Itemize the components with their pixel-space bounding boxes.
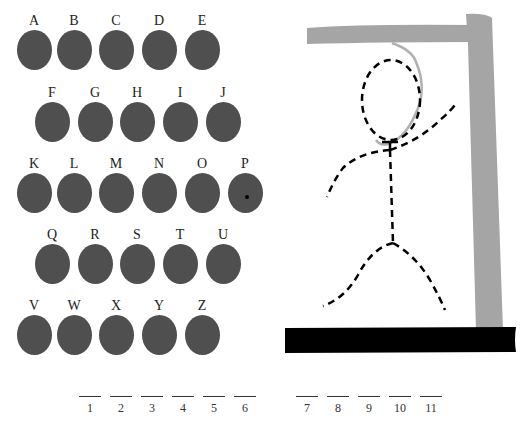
slot-underline	[389, 396, 411, 397]
letter-key-f[interactable]: F	[34, 84, 70, 142]
letter-key-p[interactable]: P	[227, 155, 263, 213]
letter-button-o[interactable]	[185, 173, 220, 213]
letter-button-i[interactable]	[163, 102, 198, 142]
slot-underline	[141, 396, 163, 397]
slot-underline	[79, 396, 101, 397]
figure-left-arm	[327, 150, 390, 197]
figure-head	[362, 60, 420, 140]
letter-button-w[interactable]	[57, 315, 92, 355]
letter-key-t[interactable]: T	[162, 226, 198, 284]
letter-button-d[interactable]	[142, 30, 177, 70]
letter-button-a[interactable]	[17, 30, 52, 70]
letter-button-s[interactable]	[120, 244, 155, 284]
letter-label: U	[205, 226, 241, 244]
letter-button-u[interactable]	[206, 244, 241, 284]
letter-key-b[interactable]: B	[56, 12, 92, 70]
letter-key-s[interactable]: S	[119, 226, 155, 284]
letter-key-v[interactable]: V	[16, 297, 52, 355]
letter-key-o[interactable]: O	[184, 155, 220, 213]
letter-button-b[interactable]	[57, 30, 92, 70]
letter-label: K	[16, 155, 52, 173]
letter-label: W	[56, 297, 92, 315]
slot-number: 11	[419, 401, 443, 416]
letter-key-a[interactable]: A	[16, 12, 52, 70]
letter-button-k[interactable]	[17, 173, 52, 213]
slot-number: 9	[357, 401, 381, 416]
letter-button-x[interactable]	[99, 315, 134, 355]
letter-key-m[interactable]: M	[98, 155, 134, 213]
figure-body	[390, 150, 393, 243]
letter-key-e[interactable]: E	[184, 12, 220, 70]
letter-label: P	[227, 155, 263, 173]
letter-label: S	[119, 226, 155, 244]
letter-label: V	[16, 297, 52, 315]
letter-label: G	[77, 84, 113, 102]
letter-key-l[interactable]: L	[56, 155, 92, 213]
slot-number: 8	[326, 401, 350, 416]
letter-key-q[interactable]: Q	[34, 226, 70, 284]
slot-number: 1	[78, 401, 102, 416]
gallows-top-beam	[307, 25, 470, 44]
letter-label: F	[34, 84, 70, 102]
word-slot-7: 7	[295, 396, 319, 416]
letter-button-l[interactable]	[57, 173, 92, 213]
letter-key-i[interactable]: I	[162, 84, 198, 142]
letter-key-r[interactable]: R	[77, 226, 113, 284]
letter-label: A	[16, 12, 52, 30]
letter-key-g[interactable]: G	[77, 84, 113, 142]
gallows-post	[466, 14, 503, 330]
letter-button-p[interactable]	[228, 173, 263, 213]
letter-key-j[interactable]: J	[205, 84, 241, 142]
letter-button-n[interactable]	[142, 173, 177, 213]
letter-key-d[interactable]: D	[141, 12, 177, 70]
letter-button-z[interactable]	[185, 315, 220, 355]
letter-label: J	[205, 84, 241, 102]
letter-label: Q	[34, 226, 70, 244]
word-slot-5: 5	[202, 396, 226, 416]
letter-key-c[interactable]: C	[98, 12, 134, 70]
letter-key-y[interactable]: Y	[141, 297, 177, 355]
letter-key-k[interactable]: K	[16, 155, 52, 213]
letter-key-h[interactable]: H	[119, 84, 155, 142]
letter-label: L	[56, 155, 92, 173]
letter-button-r[interactable]	[78, 244, 113, 284]
letter-button-c[interactable]	[99, 30, 134, 70]
word-slot-8: 8	[326, 396, 350, 416]
letter-label: N	[141, 155, 177, 173]
slot-underline	[234, 396, 256, 397]
word-slot-1: 1	[78, 396, 102, 416]
letter-key-u[interactable]: U	[205, 226, 241, 284]
letter-button-q[interactable]	[35, 244, 70, 284]
letter-button-t[interactable]	[163, 244, 198, 284]
letter-label: C	[98, 12, 134, 30]
letter-key-x[interactable]: X	[98, 297, 134, 355]
slot-number: 5	[202, 401, 226, 416]
letter-button-g[interactable]	[78, 102, 113, 142]
letter-key-n[interactable]: N	[141, 155, 177, 213]
slot-underline	[172, 396, 194, 397]
figure-right-leg	[393, 243, 445, 310]
hangman-drawing	[280, 0, 529, 365]
slot-number: 6	[233, 401, 257, 416]
letter-key-z[interactable]: Z	[184, 297, 220, 355]
slot-underline	[110, 396, 132, 397]
letter-label: B	[56, 12, 92, 30]
letter-button-m[interactable]	[99, 173, 134, 213]
letter-button-h[interactable]	[120, 102, 155, 142]
letter-key-w[interactable]: W	[56, 297, 92, 355]
letter-button-e[interactable]	[185, 30, 220, 70]
mouse-cursor-icon	[245, 195, 249, 199]
letter-label: Z	[184, 297, 220, 315]
letter-button-f[interactable]	[35, 102, 70, 142]
slot-number: 4	[171, 401, 195, 416]
letter-label: H	[119, 84, 155, 102]
word-slot-6: 6	[233, 396, 257, 416]
letter-label: X	[98, 297, 134, 315]
letter-button-v[interactable]	[17, 315, 52, 355]
slot-underline	[327, 396, 349, 397]
slot-number: 7	[295, 401, 319, 416]
letter-button-y[interactable]	[142, 315, 177, 355]
letter-label: M	[98, 155, 134, 173]
word-slot-9: 9	[357, 396, 381, 416]
letter-button-j[interactable]	[206, 102, 241, 142]
